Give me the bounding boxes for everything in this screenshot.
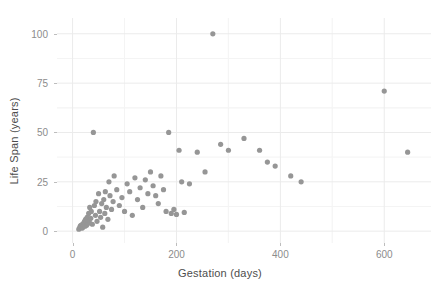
data-point — [163, 209, 168, 214]
data-point — [106, 179, 111, 184]
data-point — [88, 216, 93, 221]
data-point — [176, 148, 181, 153]
data-point — [174, 212, 179, 217]
x-tick-label: 200 — [168, 249, 185, 260]
x-tick-label: 0 — [70, 249, 76, 260]
x-tick-mark — [73, 243, 74, 246]
data-point — [156, 201, 161, 206]
scatter-plot-svg — [57, 18, 431, 243]
data-point — [226, 148, 231, 153]
data-point — [257, 148, 262, 153]
data-point — [179, 179, 184, 184]
data-point — [117, 203, 122, 208]
data-point — [96, 191, 101, 196]
data-point — [273, 163, 278, 168]
data-point — [187, 181, 192, 186]
data-point — [104, 205, 109, 210]
data-point — [130, 213, 135, 218]
data-point — [112, 173, 117, 178]
y-axis-label: Life Span (years) — [8, 66, 20, 216]
data-point — [151, 183, 156, 188]
data-point — [405, 150, 410, 155]
x-tick-label: 400 — [272, 249, 289, 260]
data-point — [122, 209, 127, 214]
data-point — [105, 217, 110, 222]
data-point — [143, 177, 148, 182]
data-point — [89, 209, 94, 214]
data-point — [148, 169, 153, 174]
data-point — [210, 31, 215, 36]
data-point — [101, 197, 106, 202]
data-point — [98, 215, 103, 220]
data-point — [195, 150, 200, 155]
y-tick-mark — [54, 132, 57, 133]
data-points — [76, 31, 410, 232]
x-axis-label: Gestation (days) — [0, 267, 440, 279]
data-point — [158, 173, 163, 178]
data-point — [288, 173, 293, 178]
y-tick-mark — [54, 231, 57, 232]
data-point — [202, 169, 207, 174]
data-point — [138, 185, 143, 190]
data-point — [166, 130, 171, 135]
y-tick-label: 0 — [0, 226, 48, 237]
x-tick-mark — [280, 243, 281, 246]
data-point — [90, 222, 95, 227]
data-point — [114, 187, 119, 192]
data-point — [107, 193, 112, 198]
y-tick-label: 100 — [0, 28, 48, 39]
x-tick-label: 600 — [376, 249, 393, 260]
data-point — [93, 213, 98, 218]
data-point — [135, 197, 140, 202]
data-point — [153, 193, 158, 198]
data-point — [132, 175, 137, 180]
data-point — [94, 219, 99, 224]
x-tick-mark — [176, 243, 177, 246]
y-tick-mark — [54, 34, 57, 35]
data-point — [103, 189, 108, 194]
y-tick-mark — [54, 83, 57, 84]
scatter-chart-figure: 0200400600 0255075100 Gestation (days) L… — [0, 0, 440, 281]
y-tick-mark — [54, 182, 57, 183]
plot-panel — [57, 18, 431, 243]
data-point — [161, 187, 166, 192]
data-point — [102, 211, 107, 216]
data-point — [218, 142, 223, 147]
data-point — [299, 179, 304, 184]
data-point — [109, 207, 114, 212]
data-point — [125, 181, 130, 186]
data-point — [140, 205, 145, 210]
data-point — [100, 225, 105, 230]
data-point — [111, 199, 116, 204]
data-point — [145, 191, 150, 196]
data-point — [182, 210, 187, 215]
data-point — [97, 209, 102, 214]
x-tick-mark — [384, 243, 385, 246]
data-point — [119, 195, 124, 200]
data-point — [382, 88, 387, 93]
data-point — [127, 189, 132, 194]
data-point — [91, 130, 96, 135]
data-point — [93, 199, 98, 204]
data-point — [171, 207, 176, 212]
data-point — [241, 136, 246, 141]
data-point — [265, 159, 270, 164]
